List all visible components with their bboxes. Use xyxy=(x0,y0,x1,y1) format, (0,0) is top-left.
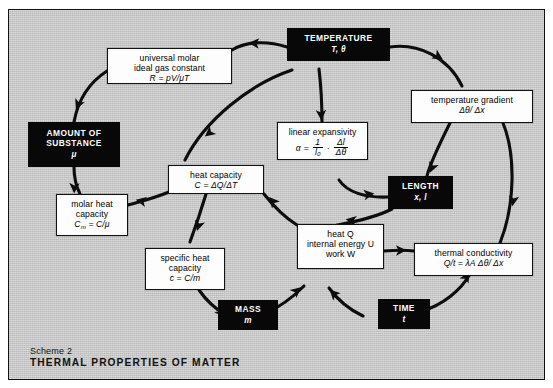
linear-expansivity-frac1-num: 1 xyxy=(313,138,323,147)
linear-expansivity-alpha: α xyxy=(296,143,301,153)
arrowhead-specific xyxy=(192,219,205,232)
node-gas-constant[interactable]: universal molar ideal gas constant R = p… xyxy=(107,48,232,84)
linear-expansivity-frac1-den: l₀ xyxy=(313,147,323,157)
edge-gradient-to-length xyxy=(427,123,450,176)
arrowhead-amount xyxy=(71,98,85,112)
node-temperature-symbols: T, θ xyxy=(331,45,346,55)
arrowhead-energy-from-time xyxy=(326,286,341,301)
node-amount-of-substance-line2: SUBSTANCE xyxy=(46,139,102,149)
node-heat-capacity[interactable]: heat capacity C = ΔQ/ΔT xyxy=(168,165,264,194)
temperature-gradient-line1: temperature gradient xyxy=(417,95,527,105)
arrowhead-thermal-from-gradient xyxy=(507,195,519,207)
edge-heat-capacity-to-molar xyxy=(128,192,169,205)
node-time-title: TIME xyxy=(393,304,415,314)
molar-heat-capacity-rhs: = C/μ xyxy=(88,219,109,229)
diagram-canvas: TEMPERATURE T, θ AMOUNT OF SUBSTANCE μ L… xyxy=(0,0,553,388)
node-temperature[interactable]: TEMPERATURE T, θ xyxy=(287,28,390,61)
edge-energy-to-thermal-conductivity xyxy=(384,250,414,251)
molar-heat-capacity-sub: m xyxy=(81,223,86,230)
scheme-label: Scheme 2 xyxy=(30,346,240,356)
heat-capacity-formula: C = ΔQ/ΔT xyxy=(174,180,258,190)
node-length-title: LENGTH xyxy=(402,182,439,192)
temperature-gradient-formula: Δθ/ Δx xyxy=(417,105,527,115)
gas-constant-line2: ideal gas constant xyxy=(113,63,226,73)
node-temperature-gradient[interactable]: temperature gradient Δθ/ Δx xyxy=(411,90,533,123)
edge-energy-to-heat-capacity xyxy=(264,194,297,225)
diagram-caption: Scheme 2 THERMAL PROPERTIES OF MATTER xyxy=(30,346,240,368)
node-linear-expansivity[interactable]: linear expansivity α = 1 l₀ · Δl Δθ xyxy=(277,122,368,160)
edge-temperature-to-gradient xyxy=(390,46,462,86)
arrowhead-length-from-gradient xyxy=(425,161,439,175)
arrowhead-length-from-expansivity xyxy=(363,188,375,200)
thermal-conductivity-line1: thermal conductivity xyxy=(420,248,527,258)
specific-heat-capacity-line2: capacity xyxy=(151,263,219,273)
edge-amount-to-molar xyxy=(74,167,80,194)
linear-expansivity-frac2: Δl Δθ xyxy=(334,138,349,157)
linear-expansivity-frac1: 1 l₀ xyxy=(313,138,323,157)
molar-heat-capacity-formula: Cm = C/μ xyxy=(62,219,122,230)
linear-expansivity-formula: α = 1 l₀ · Δl Δθ xyxy=(283,138,362,157)
molar-heat-capacity-line2: capacity xyxy=(62,209,122,219)
arrowhead-molar-from-amount xyxy=(69,183,80,194)
edge-gas-constant-to-amount xyxy=(74,71,107,122)
edge-time-to-energy xyxy=(329,288,363,316)
energy-line2: internal energy U xyxy=(303,239,378,249)
node-length-symbols: x, l xyxy=(414,193,427,203)
linear-expansivity-equals: = xyxy=(304,143,309,153)
node-amount-of-substance[interactable]: AMOUNT OF SUBSTANCE μ xyxy=(28,122,120,167)
diagram-title: THERMAL PROPERTIES OF MATTER xyxy=(30,357,240,368)
node-thermal-conductivity[interactable]: thermal conductivity Q/t = λA Δθ/ Δx xyxy=(414,243,533,276)
energy-line3: work W xyxy=(303,249,378,259)
edge-linear-expansivity-to-length xyxy=(339,180,388,197)
node-mass-title: MASS xyxy=(235,305,261,315)
node-time-symbols: t xyxy=(402,315,405,325)
heat-capacity-line1: heat capacity xyxy=(174,170,258,180)
arrowhead-thermal-from-energy xyxy=(396,245,407,256)
specific-heat-capacity-line1: specific heat xyxy=(151,253,219,263)
linear-expansivity-frac2-num: Δl xyxy=(334,138,349,147)
energy-line1: heat Q xyxy=(303,229,378,239)
node-specific-heat-capacity[interactable]: specific heat capacity c = C/m xyxy=(145,248,225,290)
node-time[interactable]: TIME t xyxy=(378,299,430,329)
node-amount-of-substance-symbols: μ xyxy=(71,150,76,160)
arrowhead-heat-capacity-from-temp xyxy=(202,126,217,141)
specific-heat-capacity-formula: c = C/m xyxy=(151,273,219,283)
arrowhead-molar-from-heat-capacity xyxy=(135,195,147,207)
diagram-page: TEMPERATURE T, θ AMOUNT OF SUBSTANCE μ L… xyxy=(0,0,553,388)
arrowhead-heat-capacity-from-energy xyxy=(265,194,280,209)
gas-constant-formula: R = pV/μT xyxy=(113,73,226,83)
arrowhead-gradient xyxy=(431,50,445,64)
molar-heat-capacity-line1: molar heat xyxy=(62,199,122,209)
node-mass-symbols: m xyxy=(244,316,252,326)
linear-expansivity-dot: · xyxy=(327,143,330,153)
edge-length-to-energy xyxy=(337,209,392,225)
arrowhead-energy-from-mass xyxy=(290,283,305,298)
edge-gradient-to-thermal-conductivity xyxy=(500,123,512,243)
thermal-conductivity-formula: Q/t = λA Δθ/ Δx xyxy=(420,258,527,268)
node-length[interactable]: LENGTH x, l xyxy=(388,176,453,209)
gas-constant-line1: universal molar xyxy=(113,53,226,63)
edge-heat-capacity-to-specific xyxy=(190,194,206,242)
edge-temperature-to-gas-constant xyxy=(232,43,287,50)
node-temperature-title: TEMPERATURE xyxy=(304,34,372,44)
arrowhead-linear-expansivity xyxy=(316,110,327,121)
node-energy[interactable]: heat Q internal energy U work W xyxy=(297,224,384,269)
node-molar-heat-capacity[interactable]: molar heat capacity Cm = C/μ xyxy=(56,194,128,236)
linear-expansivity-line1: linear expansivity xyxy=(283,127,362,137)
linear-expansivity-frac2-den: Δθ xyxy=(334,147,349,157)
edge-temperature-to-linear-expansivity xyxy=(319,69,322,122)
node-mass[interactable]: MASS m xyxy=(218,300,278,330)
arrowhead-gas-constant xyxy=(248,38,259,49)
